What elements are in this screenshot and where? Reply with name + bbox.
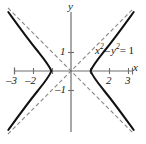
y-axis-tick-label-pos1: 1: [60, 46, 66, 57]
y-axis-tick-label-neg1: –1: [55, 84, 66, 95]
y-axis-name-label: y: [68, 1, 73, 12]
x-axis-name-label: x: [133, 62, 138, 73]
equation-right-hand-side: = 1: [120, 44, 134, 56]
equation-minus-sign: –: [104, 44, 111, 56]
x-axis-tick-label-neg3: –3: [6, 75, 17, 86]
hyperbola-figure: –3 –2 2 3 1 –1 x y x2 – y2= 1: [0, 0, 146, 144]
plot-canvas: [0, 0, 146, 144]
x-axis-tick-label-pos3: 3: [125, 75, 131, 86]
equation-annotation: x2 – y2= 1: [95, 45, 134, 56]
x-axis-tick-label-pos2: 2: [106, 75, 112, 86]
x-axis-tick-label-neg2: –2: [25, 75, 36, 86]
